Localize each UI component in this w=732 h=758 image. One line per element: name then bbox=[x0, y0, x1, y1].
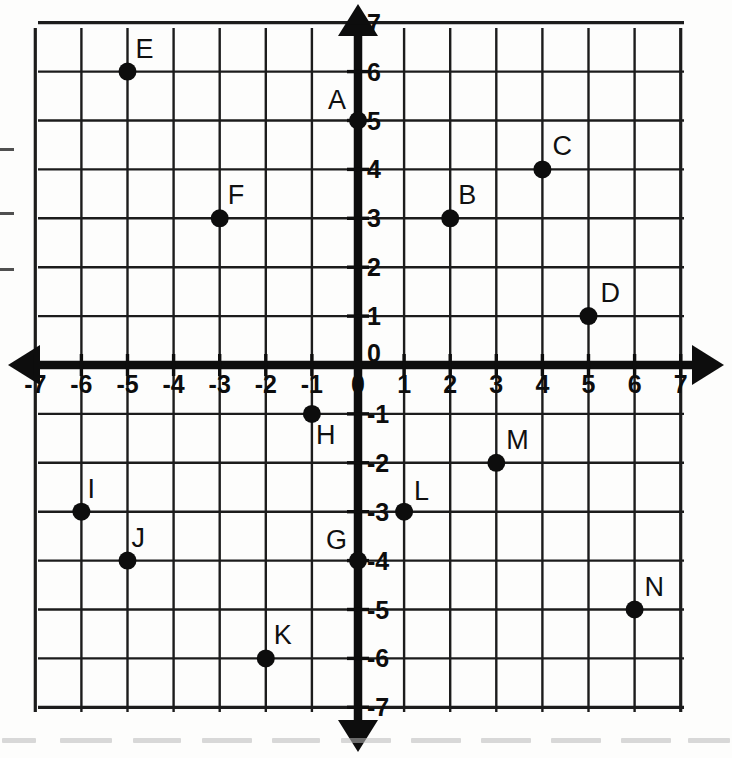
plotted-point-m bbox=[487, 454, 505, 472]
x-axis-label-neg4: -4 bbox=[162, 372, 184, 397]
x-axis-label-4: 4 bbox=[535, 372, 549, 397]
plotted-point-i bbox=[72, 503, 90, 521]
point-label-k: K bbox=[274, 622, 292, 649]
footer-smudge-artifact bbox=[621, 738, 671, 743]
point-label-j: J bbox=[132, 525, 146, 552]
point-label-c: C bbox=[552, 133, 572, 160]
x-axis-label-neg5: -5 bbox=[116, 372, 138, 397]
y-axis-label-neg3: -3 bbox=[367, 499, 389, 524]
plotted-point-n bbox=[626, 601, 644, 619]
point-label-g: G bbox=[326, 527, 347, 554]
plotted-point-a bbox=[349, 112, 367, 130]
graph-svg bbox=[0, 0, 732, 758]
edge-dash-artifact bbox=[0, 268, 14, 271]
footer-smudge-artifact bbox=[202, 738, 252, 743]
footer-smudge-artifact bbox=[688, 738, 730, 743]
edge-dash-artifact bbox=[0, 148, 14, 151]
y-axis-label-5: 5 bbox=[367, 108, 381, 133]
point-label-n: N bbox=[645, 574, 665, 601]
x-axis-label-neg1: -1 bbox=[301, 372, 323, 397]
point-label-b: B bbox=[458, 182, 476, 209]
plotted-point-c bbox=[533, 160, 551, 178]
x-axis-label-3: 3 bbox=[489, 372, 503, 397]
x-axis-label-neg2: -2 bbox=[255, 372, 277, 397]
plotted-point-e bbox=[119, 63, 137, 81]
point-label-i: I bbox=[87, 476, 95, 503]
plotted-point-f bbox=[211, 209, 229, 227]
plotted-point-l bbox=[395, 503, 413, 521]
plotted-point-b bbox=[441, 209, 459, 227]
x-axis-label-0: 0 bbox=[351, 372, 365, 397]
footer-smudge-artifact bbox=[341, 738, 391, 743]
footer-smudge-artifact bbox=[60, 738, 112, 743]
y-axis-label-neg7: -7 bbox=[367, 695, 389, 720]
footer-smudge-artifact bbox=[551, 738, 601, 743]
y-axis-label-6: 6 bbox=[367, 59, 381, 84]
plotted-point-d bbox=[580, 307, 598, 325]
y-axis-label-2: 2 bbox=[367, 255, 381, 280]
y-axis-label-3: 3 bbox=[367, 206, 381, 231]
y-axis-label-1: 1 bbox=[367, 304, 381, 329]
plotted-point-j bbox=[119, 552, 137, 570]
point-label-l: L bbox=[414, 478, 429, 505]
y-axis-label-neg2: -2 bbox=[367, 450, 389, 475]
coordinate-plane-graph bbox=[0, 0, 732, 758]
plotted-point-g bbox=[349, 552, 367, 570]
y-axis-label-neg4: -4 bbox=[367, 548, 389, 573]
point-label-m: M bbox=[506, 427, 529, 454]
plotted-point-k bbox=[257, 649, 275, 667]
x-axis-label-5: 5 bbox=[582, 372, 596, 397]
footer-smudge-artifact bbox=[411, 738, 461, 743]
footer-smudge-artifact bbox=[272, 738, 320, 743]
y-axis-label-neg5: -5 bbox=[367, 597, 389, 622]
x-axis-label-neg6: -6 bbox=[70, 372, 92, 397]
footer-smudge-artifact bbox=[481, 738, 531, 743]
x-axis-label-neg3: -3 bbox=[209, 372, 231, 397]
x-axis-label-neg7: -7 bbox=[24, 372, 46, 397]
point-label-a: A bbox=[328, 87, 346, 114]
x-axis-label-2: 2 bbox=[443, 372, 457, 397]
footer-smudge-artifact bbox=[133, 738, 181, 743]
point-label-f: F bbox=[228, 182, 245, 209]
point-label-e: E bbox=[136, 36, 154, 63]
x-axis-label-6: 6 bbox=[628, 372, 642, 397]
x-axis-label-7: 7 bbox=[674, 372, 688, 397]
edge-dash-artifact bbox=[0, 212, 14, 215]
footer-smudge-artifact bbox=[2, 738, 36, 743]
point-label-h: H bbox=[316, 422, 336, 449]
y-axis-label-neg6: -6 bbox=[367, 646, 389, 671]
y-axis-label-neg1: -1 bbox=[367, 401, 389, 426]
y-axis-label-7: 7 bbox=[367, 10, 381, 35]
x-axis-label-1: 1 bbox=[397, 372, 411, 397]
worksheet-page: -7-6-5-4-3-2-101234567-7-6-5-4-3-2-11234… bbox=[0, 0, 732, 758]
y-axis-label-4: 4 bbox=[367, 157, 381, 182]
y-axis-label-zero: 0 bbox=[367, 341, 381, 366]
point-label-d: D bbox=[601, 280, 621, 307]
